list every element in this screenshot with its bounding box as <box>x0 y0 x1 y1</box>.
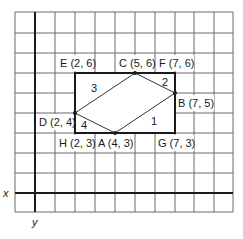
label-point-f: F (7, 6) <box>159 57 194 69</box>
label-point-e: E (2, 6) <box>60 57 96 69</box>
label-point-h: H (2, 3) <box>59 137 96 149</box>
point-d-dot <box>73 111 77 115</box>
region-label-3: 3 <box>91 82 97 94</box>
point-b-dot <box>173 91 177 95</box>
region-label-4: 4 <box>81 119 87 131</box>
label-point-d: D (2, 4) <box>39 116 76 128</box>
label-point-g: G (7, 3) <box>158 137 195 149</box>
label-point-a: A (4, 3) <box>98 137 133 149</box>
x-axis-label: x <box>2 187 9 199</box>
point-a-dot <box>113 131 117 135</box>
point-c-dot <box>133 71 137 75</box>
region-label-1: 1 <box>151 115 157 127</box>
label-point-c: C (5, 6) <box>119 57 156 69</box>
region-label-2: 2 <box>162 76 168 88</box>
label-point-b: B (7, 5) <box>178 97 214 109</box>
coordinate-diagram: E (2, 6) C (5, 6) F (7, 6) B (7, 5) D (2… <box>0 0 243 239</box>
